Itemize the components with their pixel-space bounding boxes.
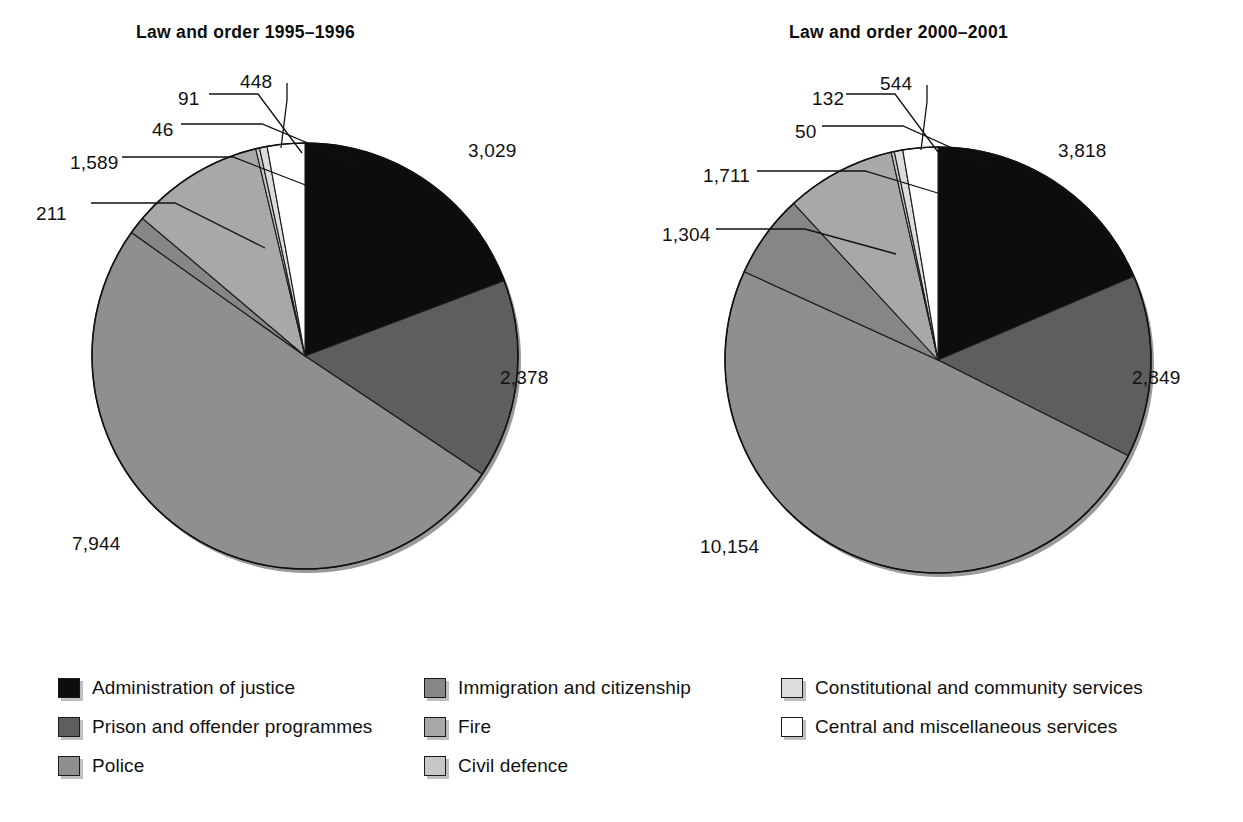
pie-value-label: 1,711	[703, 165, 750, 187]
leader-line	[281, 83, 287, 148]
legend-column-3: Constitutional and community servicesCen…	[781, 668, 1143, 746]
legend-item[interactable]: Police	[58, 746, 372, 785]
legend-item[interactable]: Immigration and citizenship	[424, 668, 691, 707]
pie-value-label: 448	[240, 71, 272, 93]
legend-item[interactable]: Civil defence	[424, 746, 691, 785]
legend-column-1: Administration of justicePrison and offe…	[58, 668, 372, 785]
pie-value-label: 1,589	[70, 152, 119, 174]
pie-value-label: 132	[812, 88, 844, 110]
pie-value-label: 2,378	[500, 367, 549, 389]
legend-swatch-icon	[781, 678, 803, 698]
pie-value-label: 50	[795, 121, 817, 143]
pie-chart-figure: Law and order 1995–1996 Law and order 20…	[0, 0, 1243, 822]
legend-swatch-icon	[781, 717, 803, 737]
legend-item-label: Immigration and citizenship	[458, 677, 691, 699]
legend-column-2: Immigration and citizenshipFireCivil def…	[424, 668, 691, 785]
pie-value-label: 3,818	[1058, 140, 1107, 162]
pie-value-label: 46	[152, 119, 174, 141]
legend-item[interactable]: Fire	[424, 707, 691, 746]
legend-item-label: Administration of justice	[92, 677, 295, 699]
legend-item-label: Fire	[458, 716, 491, 738]
pie-value-label: 544	[880, 73, 912, 95]
pie-value-label: 211	[36, 203, 67, 225]
legend-item-label: Central and miscellaneous services	[815, 716, 1117, 738]
legend-item-label: Constitutional and community services	[815, 677, 1143, 699]
legend-item[interactable]: Prison and offender programmes	[58, 707, 372, 746]
pie-chart-right	[725, 147, 1154, 577]
legend-swatch-icon	[424, 756, 446, 776]
pie-value-label: 91	[178, 88, 200, 110]
legend-swatch-icon	[424, 717, 446, 737]
pie-value-label: 3,029	[468, 140, 517, 162]
legend-item[interactable]: Administration of justice	[58, 668, 372, 707]
pie-value-label: 10,154	[700, 536, 759, 558]
pie-value-label: 1,304	[662, 224, 711, 246]
legend-swatch-icon	[58, 678, 80, 698]
legend-swatch-icon	[58, 756, 80, 776]
legend-item-label: Prison and offender programmes	[92, 716, 372, 738]
pie-value-label: 2,849	[1132, 367, 1181, 389]
legend-swatch-icon	[424, 678, 446, 698]
legend-item[interactable]: Central and miscellaneous services	[781, 707, 1143, 746]
pie-value-label: 7,944	[72, 533, 121, 555]
leader-line	[921, 85, 927, 150]
legend-item[interactable]: Constitutional and community services	[781, 668, 1143, 707]
legend-item-label: Police	[92, 755, 144, 777]
pie-chart-left	[92, 143, 521, 573]
legend-item-label: Civil defence	[458, 755, 568, 777]
legend-swatch-icon	[58, 717, 80, 737]
